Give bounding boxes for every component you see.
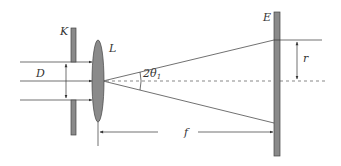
incident-rays — [20, 62, 92, 100]
label-aperture: K — [59, 25, 69, 38]
label-screen: E — [262, 11, 271, 24]
screen-plate — [274, 12, 280, 156]
label-angle: 2θ1 — [142, 67, 161, 81]
label-angle-sub: 1 — [157, 73, 161, 81]
diffracted-rays — [103, 40, 274, 123]
lens — [92, 40, 104, 122]
angle-arc — [140, 72, 141, 90]
label-lens: L — [108, 42, 116, 55]
aperture-plate — [71, 28, 76, 135]
label-focal-length: f — [183, 126, 190, 139]
label-diameter: D — [35, 67, 45, 80]
label-radius: r — [303, 52, 309, 65]
optics-diagram: K L E D 2θ1 r f — [0, 0, 341, 166]
diagram-canvas: K L E D 2θ1 r f — [0, 0, 341, 166]
label-angle-main: 2θ — [142, 67, 157, 80]
